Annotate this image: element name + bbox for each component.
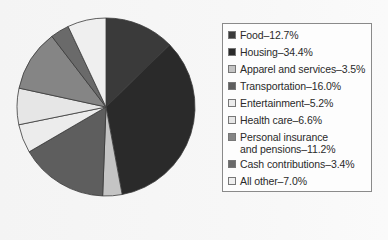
legend-label: Health care–6.6% <box>240 114 322 126</box>
legend-item-housing: Housing–34.4% <box>228 46 371 58</box>
legend-item-transportation: Transportation–16.0% <box>228 80 371 92</box>
legend-item-health-care: Health care–6.6% <box>228 114 371 126</box>
legend-label: Apparel and services–3.5% <box>240 63 365 75</box>
legend-label: Food–12.7% <box>240 29 299 41</box>
legend-swatch <box>228 82 236 90</box>
legend-item-food: Food–12.7% <box>228 29 371 41</box>
legend-item-all-other: All other–7.0% <box>228 175 371 187</box>
legend-label: Entertainment–5.2% <box>240 97 333 109</box>
legend-swatch <box>228 133 236 141</box>
legend-swatch <box>228 65 236 73</box>
legend-label: Personal insurance and pensions–11.2% <box>240 131 336 155</box>
chart-legend: Food–12.7% Housing–34.4% Apparel and ser… <box>222 23 372 192</box>
legend-label: Transportation–16.0% <box>240 80 341 92</box>
legend-item-cash-contributions: Cash contributions–3.4% <box>228 158 371 170</box>
legend-item-entertainment: Entertainment–5.2% <box>228 97 371 109</box>
legend-label: All other–7.0% <box>240 175 307 187</box>
legend-swatch <box>228 116 236 124</box>
legend-item-personal-insurance: Personal insurance and pensions–11.2% <box>228 131 371 155</box>
legend-swatch <box>228 160 236 168</box>
legend-swatch <box>228 48 236 56</box>
legend-label: Cash contributions–3.4% <box>240 158 354 170</box>
legend-swatch <box>228 177 236 185</box>
legend-swatch <box>228 99 236 107</box>
legend-item-apparel: Apparel and services–3.5% <box>228 63 371 75</box>
legend-label: Housing–34.4% <box>240 46 313 58</box>
pie-chart <box>0 0 220 204</box>
legend-swatch <box>228 31 236 39</box>
